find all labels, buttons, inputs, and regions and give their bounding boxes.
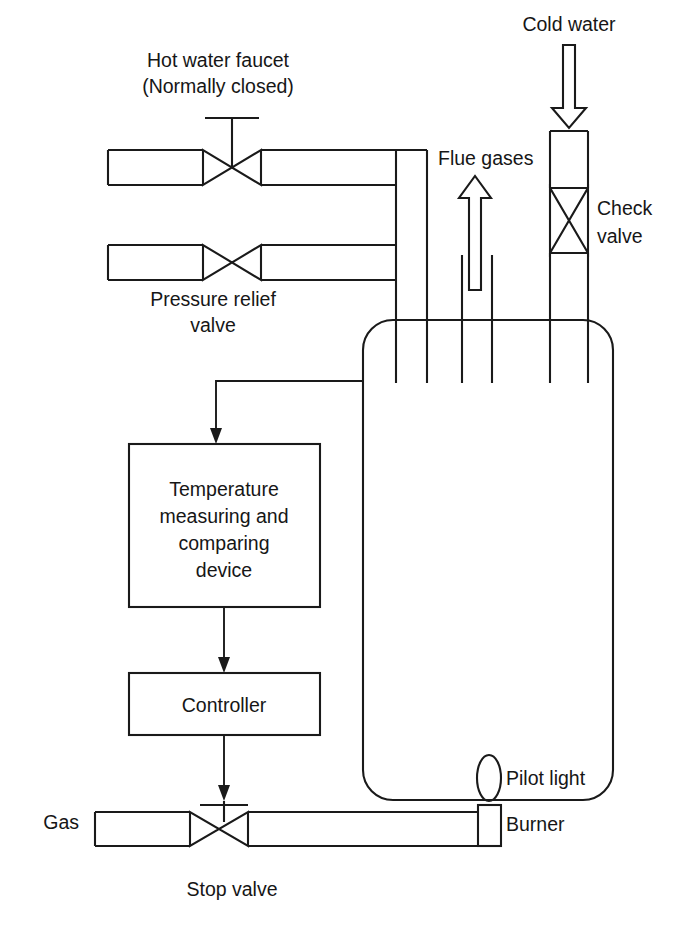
gas-supply-pipe (95, 812, 478, 846)
cold-water-downcomer (550, 253, 588, 383)
pressure-relief-valve[interactable] (203, 245, 261, 280)
temperature-device-label-line1: Temperature (169, 478, 278, 500)
relief-pipe-right-segment (261, 245, 396, 280)
flue-gases-label: Flue gases (438, 147, 534, 169)
hot-pipe-left-segment (108, 150, 203, 185)
stop-valve-label: Stop valve (186, 878, 277, 900)
controller-valve-arrowhead (218, 785, 230, 801)
pilot-light-flame (477, 755, 501, 801)
burner-box (478, 805, 501, 846)
temperature-to-controller-link (218, 607, 230, 673)
pilot-light-label: Pilot light (506, 767, 586, 789)
cold-water-label: Cold water (522, 13, 616, 35)
hot-water-riser (396, 150, 427, 383)
check-valve-label-line1: Check (597, 197, 653, 219)
stop-valve-bowtie-body (190, 812, 248, 846)
controller-to-stop-valve-link (218, 735, 230, 801)
gas-pipe-right-segment (248, 812, 478, 846)
temperature-device-label-line2: measuring and (160, 505, 289, 527)
check-valve-label-line2: valve (597, 225, 643, 247)
cold-inlet-upper-pipe (550, 131, 588, 188)
check-valve[interactable] (550, 188, 588, 253)
flue-stack (459, 176, 492, 383)
water-tank (363, 320, 613, 800)
hot-water-faucet[interactable] (203, 118, 261, 185)
relief-pipe-left-segment (108, 245, 203, 280)
temperature-device-label-line4: device (196, 559, 252, 581)
cold-water-inlet (550, 45, 588, 188)
stop-valve[interactable] (190, 801, 248, 846)
gas-pipe-left-segment (95, 812, 190, 846)
pressure-relief-valve-label-line1: Pressure relief (150, 288, 276, 310)
schematic-canvas: Hot water faucet (Normally closed) Cold … (0, 0, 681, 939)
water-heater-diagram: Hot water faucet (Normally closed) Cold … (0, 0, 681, 939)
temperature-sensing-line (210, 381, 363, 444)
burner-label: Burner (506, 813, 565, 835)
cold-water-flow-arrow (552, 45, 586, 128)
tank-body-outline (363, 320, 613, 800)
gas-label: Gas (43, 811, 79, 833)
hot-water-faucet-label-line2: (Normally closed) (142, 75, 294, 97)
hot-water-faucet-label-line1: Hot water faucet (147, 49, 290, 71)
temperature-device-label-line3: comparing (178, 532, 269, 554)
hot-pipe-right-segment (261, 150, 427, 185)
sensing-line-arrowhead (210, 428, 222, 444)
check-valve-bowtie-body (550, 188, 588, 253)
hot-water-outlet-pipe (108, 150, 427, 185)
pressure-relief-bowtie-body (203, 245, 261, 280)
temp-controller-arrowhead (218, 657, 230, 673)
burner (478, 805, 501, 846)
pressure-relief-valve-label-line2: valve (190, 314, 236, 336)
pilot-light (477, 755, 501, 801)
controller-label: Controller (182, 694, 267, 716)
flue-gases-flow-arrow (459, 176, 491, 290)
sensing-line-path (216, 381, 363, 432)
